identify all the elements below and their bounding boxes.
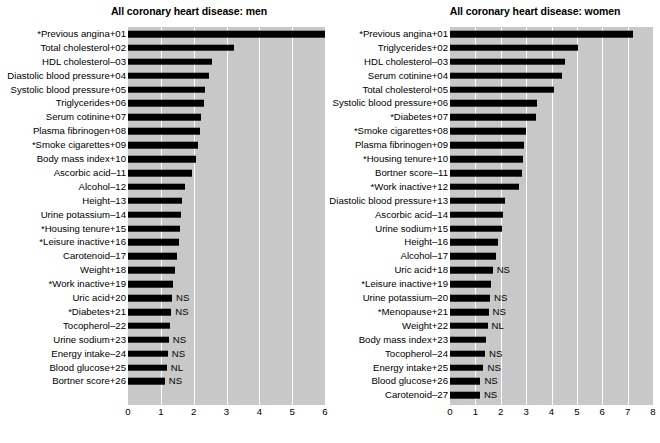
bar-category-label: Systolic blood pressure+05 xyxy=(11,85,126,95)
bar-row: Alcohol–17 xyxy=(450,249,653,263)
bar-row: Alcohol–12 xyxy=(128,180,325,194)
bar-row: Systolic blood pressure+06 xyxy=(450,97,653,111)
bar xyxy=(128,309,171,316)
figure-root: All coronary heart disease: men *Previou… xyxy=(0,0,660,443)
bar xyxy=(128,128,200,135)
bar-row: Tocopherol–24NS xyxy=(450,347,653,361)
x-axis-tick-label: 1 xyxy=(473,407,478,417)
bar xyxy=(128,184,185,191)
bar-row: Serum cotinine+04 xyxy=(450,69,653,83)
significance-annotation: NS xyxy=(169,377,182,387)
bar xyxy=(128,253,177,260)
bar-category-label: Alcohol–12 xyxy=(79,182,126,192)
bar xyxy=(128,211,181,218)
bar-row: *Diabetes+21NS xyxy=(128,305,325,319)
bar-category-label: Urine sodium+23 xyxy=(53,335,126,345)
bar xyxy=(128,323,170,330)
bar-category-label: Blood glucose+26 xyxy=(371,377,448,387)
bar xyxy=(128,156,196,163)
bar-category-label: Blood glucose+25 xyxy=(49,363,126,373)
bar xyxy=(450,225,502,232)
bar xyxy=(128,114,201,121)
bar-row: *Housing tenure+10 xyxy=(450,152,653,166)
bar-row: Bortner score–11 xyxy=(450,166,653,180)
bar-category-label: Total cholesterol+02 xyxy=(40,43,126,53)
bar-row: Weight+22NL xyxy=(450,319,653,333)
x-axis-tick-label: 8 xyxy=(650,407,655,417)
bar-row: Body mass index+10 xyxy=(128,152,325,166)
bar xyxy=(128,281,173,288)
bar-category-label: Plasma fibrinogen+08 xyxy=(33,126,126,136)
bar xyxy=(450,392,480,399)
bar-row: *Smoke cigarettes+08 xyxy=(450,124,653,138)
bar xyxy=(450,58,565,65)
bar-row: Height–16 xyxy=(450,236,653,250)
bar-row: Urine potassium–14 xyxy=(128,208,325,222)
bar xyxy=(450,364,483,371)
significance-annotation: NS xyxy=(489,349,502,359)
bar-category-label: Tocopherol–24 xyxy=(385,349,448,359)
x-axis-tick-label: 0 xyxy=(125,407,130,417)
bar xyxy=(450,184,519,191)
bar xyxy=(128,225,180,232)
bar-category-label: Plasma fibrinogen+09 xyxy=(355,140,448,150)
significance-annotation: NS xyxy=(172,349,185,359)
bar-category-label: *Work inactive+19 xyxy=(49,279,126,289)
bar xyxy=(128,336,169,343)
bar xyxy=(128,31,325,38)
bar-row: Energy intake–24NS xyxy=(128,347,325,361)
bar xyxy=(450,45,578,52)
bar-category-label: *Previous angina+01 xyxy=(359,29,448,39)
x-axis-tick-label: 2 xyxy=(498,407,503,417)
bar-row: *Diabetes+07 xyxy=(450,110,653,124)
bar-category-label: *Diabetes+07 xyxy=(390,113,448,123)
chart-title-women: All coronary heart disease: women xyxy=(330,5,660,17)
bar-row: Total cholesterol+02 xyxy=(128,41,325,55)
bar-category-label: Uric acid+20 xyxy=(72,293,126,303)
x-axis-tick-label: 6 xyxy=(600,407,605,417)
bar-category-label: *Menopause+21 xyxy=(378,307,448,317)
bar-row: *Work inactive+12 xyxy=(450,180,653,194)
bar-row: Carotenoid–17 xyxy=(128,249,325,263)
bar-category-label: Carotenoid–27 xyxy=(385,391,448,401)
x-axis-tick-label: 0 xyxy=(447,407,452,417)
bar-category-label: Urine sodium+15 xyxy=(375,224,448,234)
bar xyxy=(450,197,505,204)
bar xyxy=(450,170,522,177)
bar-category-label: Weight+22 xyxy=(402,321,448,331)
bar-row: Body mass index+23 xyxy=(450,333,653,347)
bar xyxy=(128,45,234,52)
bar xyxy=(450,211,503,218)
bar xyxy=(450,253,496,260)
bar-row: Diastolic blood pressure+04 xyxy=(128,69,325,83)
bar-row: *Smoke cigarettes+09 xyxy=(128,138,325,152)
bar xyxy=(450,336,486,343)
bar xyxy=(450,142,524,149)
bar-row: Triglycerides+06 xyxy=(128,97,325,111)
bar-category-label: *Smoke cigarettes+08 xyxy=(354,126,448,136)
bar xyxy=(128,72,209,79)
bar-category-label: Serum cotinine+07 xyxy=(46,113,126,123)
bar-category-label: Ascorbic acid–11 xyxy=(54,168,126,178)
bar-row: *Previous angina+01 xyxy=(450,27,653,41)
x-axis-tick-label: 4 xyxy=(549,407,554,417)
bar xyxy=(450,323,488,330)
bar-row: Plasma fibrinogen+08 xyxy=(128,124,325,138)
bar-row: Uric acid+18NS xyxy=(450,263,653,277)
significance-annotation: NS xyxy=(173,335,186,345)
bar xyxy=(450,350,485,357)
significance-annotation: NS xyxy=(484,377,497,387)
bar-row: *Previous angina+01 xyxy=(128,27,325,41)
bar-category-label: *Leisure inactive+19 xyxy=(361,279,448,289)
bar-row: Tocopherol–22 xyxy=(128,319,325,333)
bar-row: Energy intake+25NS xyxy=(450,361,653,375)
bar-row: *Menopause+21NS xyxy=(450,305,653,319)
bar-row: Weight+18 xyxy=(128,263,325,277)
bar-row: HDL cholesterol–03 xyxy=(450,55,653,69)
bar xyxy=(450,156,523,163)
significance-annotation: NS xyxy=(497,265,510,275)
bar-category-label: Systolic blood pressure+06 xyxy=(333,99,448,109)
bar-category-label: Body mass index+23 xyxy=(359,335,448,345)
x-axis-tick-label: 1 xyxy=(158,407,163,417)
bar-row: Plasma fibrinogen+09 xyxy=(450,138,653,152)
